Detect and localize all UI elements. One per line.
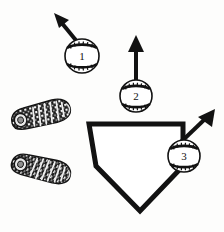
arrow-3-up-right — [181, 109, 215, 142]
home-plate — [89, 124, 183, 211]
baseball-2-number: 2 — [133, 90, 139, 102]
baseball-3: 3 — [168, 140, 200, 172]
diagram-canvas: 1 2 3 — [0, 0, 224, 232]
arrow-1-head-icon — [54, 13, 69, 28]
shoe-print-back — [9, 151, 73, 187]
baseball-1-number: 1 — [79, 50, 85, 62]
shoe-print-front — [9, 96, 73, 133]
arrow-2-head-icon — [128, 35, 144, 52]
baseball-1: 1 — [65, 39, 99, 73]
baseball-hitting-zone-diagram: 1 2 3 — [0, 0, 224, 232]
baseball-2: 2 — [120, 80, 152, 112]
baseball-3-number: 3 — [181, 150, 187, 162]
home-plate-outline — [89, 124, 183, 211]
arrow-1-up-left — [54, 13, 79, 44]
arrow-2-up — [128, 35, 144, 81]
